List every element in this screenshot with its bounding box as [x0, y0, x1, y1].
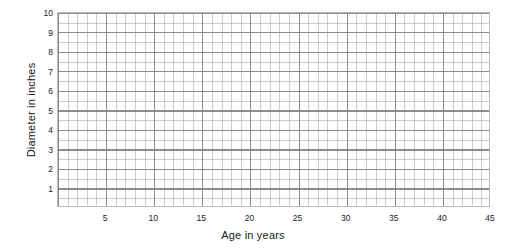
x-tick-label: 25 — [283, 214, 313, 223]
chart-figure: Diameter in inches 10 9 8 7 6 5 4 3 2 1 … — [0, 0, 520, 250]
x-tick-label: 5 — [90, 214, 120, 223]
y-axis-tick-labels: 10 9 8 7 6 5 4 3 2 1 — [28, 0, 53, 250]
y-tick-label: 2 — [31, 165, 53, 174]
y-tick-label: 1 — [31, 185, 53, 194]
y-tick-label: 6 — [31, 87, 53, 96]
y-tick-label: 7 — [31, 68, 53, 77]
x-tick-label: 45 — [475, 214, 505, 223]
x-tick-label: 20 — [234, 214, 264, 223]
y-tick-label: 10 — [31, 9, 53, 18]
x-tick-label: 10 — [138, 214, 168, 223]
grid-lines — [58, 13, 489, 206]
plot-area — [57, 12, 490, 207]
y-tick-label: 8 — [31, 48, 53, 57]
y-tick-label: 4 — [31, 126, 53, 135]
x-axis-title: Age in years — [57, 229, 449, 242]
x-tick-label: 15 — [186, 214, 216, 223]
x-tick-label: 40 — [427, 214, 457, 223]
x-tick-label: 30 — [331, 214, 361, 223]
x-tick-label: 35 — [379, 214, 409, 223]
x-axis-tick-labels: 5 10 15 20 25 30 35 40 45 — [0, 214, 520, 226]
y-tick-label: 3 — [31, 146, 53, 155]
y-tick-label: 5 — [31, 107, 53, 116]
y-tick-label: 9 — [31, 29, 53, 38]
